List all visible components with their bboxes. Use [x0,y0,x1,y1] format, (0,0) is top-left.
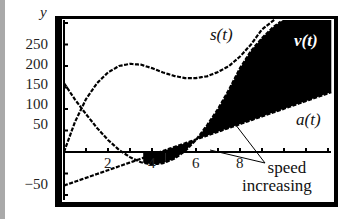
annotation-line-2: increasing [242,177,312,195]
frame-right [334,16,338,207]
x-tick-label: 8 [236,156,244,171]
annotation-line-1: speed [262,159,312,177]
frame-bottom [55,202,338,207]
v-curve-label: v(t) [294,32,318,49]
frame-left-bar [55,16,62,207]
s-label-text: s(t) [210,25,233,44]
x-tick-label: 4 [148,156,156,171]
frame-top [55,16,338,19]
speed-increasing-annotation: speed increasing [262,159,312,195]
x-tick-label: 2 [104,156,112,171]
a-curve-label: a(t) [296,111,321,128]
x-tick-label: 6 [192,156,200,171]
v-label-text: v(t) [294,31,318,50]
a-label-text: a(t) [296,110,321,129]
s-curve-label: s(t) [210,26,233,43]
